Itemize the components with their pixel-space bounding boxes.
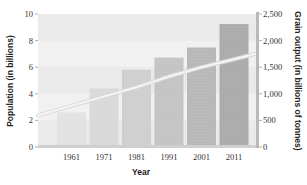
left-axis-title: Population (in billions) — [5, 35, 15, 127]
left-tick-label: 6 — [29, 62, 33, 72]
right-tick-label: 500 — [263, 115, 276, 125]
x-tick-label: 1991 — [161, 152, 178, 162]
right-axis-title: Grain output (in billions of tonnes) — [293, 11, 303, 150]
x-tick-label: 2011 — [226, 152, 243, 162]
bar-1991 — [155, 58, 184, 147]
x-tick-label: 2001 — [193, 152, 210, 162]
bar-2011 — [220, 24, 249, 147]
right-tick-label: 2,000 — [263, 36, 282, 46]
left-tick-label: 10 — [25, 9, 34, 19]
right-tick-label: 2,500 — [263, 9, 282, 19]
right-tick-label: 1,000 — [263, 89, 282, 99]
x-tick-label: 1961 — [63, 152, 80, 162]
x-tick-label: 1971 — [96, 152, 113, 162]
right-axis-line — [256, 12, 259, 148]
bar-1981 — [122, 70, 151, 147]
chart: 0246810 05001,0001,5002,0002,500 1961197… — [0, 0, 307, 185]
left-axis: 0246810 — [25, 9, 39, 152]
right-tick-label: 0 — [263, 142, 267, 152]
left-tick-label: 4 — [29, 89, 34, 99]
left-tick-label: 0 — [29, 142, 33, 152]
baseline — [38, 145, 256, 148]
left-tick-label: 8 — [29, 36, 33, 46]
bar-1961 — [57, 112, 86, 147]
x-tick-label: 1981 — [128, 152, 145, 162]
x-axis: 196119711981199120012011 — [63, 152, 242, 162]
right-tick-label: 1,500 — [263, 62, 282, 72]
left-tick-label: 2 — [29, 115, 33, 125]
x-axis-title: Year — [132, 167, 151, 177]
right-axis: 05001,0001,5002,0002,500 — [256, 9, 282, 152]
